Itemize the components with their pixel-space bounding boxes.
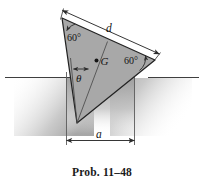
label-g: G xyxy=(101,55,109,67)
dimension-tick-right xyxy=(154,53,161,62)
figure-caption: Prob. 11–48 xyxy=(0,166,204,178)
label-d: d xyxy=(106,22,112,34)
label-angle-right: 60° xyxy=(124,55,138,66)
center-of-gravity-dot-icon xyxy=(95,59,99,63)
label-a: a xyxy=(96,128,102,140)
problem-figure: G d 60° 60° θ a xyxy=(0,0,204,189)
figure-container: G d 60° 60° θ a Prob. 11–48 xyxy=(0,0,204,189)
label-theta: θ xyxy=(76,72,82,84)
label-angle-top-left: 60° xyxy=(67,32,81,43)
